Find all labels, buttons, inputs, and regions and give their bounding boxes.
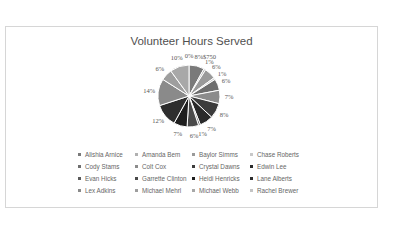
legend-item[interactable]: Colt Cox	[135, 163, 192, 170]
data-label: 14%	[143, 87, 156, 94]
legend-label: Michael Webb	[199, 187, 239, 194]
legend-label: Evan Hicks	[85, 175, 117, 182]
legend-swatch-icon	[192, 165, 195, 168]
legend-item[interactable]: Lex Adkins	[78, 187, 135, 194]
legend-item[interactable]: Amanda Bem	[135, 151, 192, 158]
data-label: 7%	[174, 130, 183, 137]
legend-swatch-icon	[78, 165, 81, 168]
legend-item[interactable]: Rachel Brewer	[250, 187, 308, 194]
legend-label: Baylor Simms	[199, 151, 238, 158]
data-label: 10%	[171, 54, 184, 61]
legend-item[interactable]: Garrette Clinton	[135, 175, 192, 182]
legend-label: Cody Stams	[85, 163, 119, 170]
legend-item[interactable]: Michael Webb	[192, 187, 250, 194]
data-label: 0%	[185, 52, 194, 59]
legend-swatch-icon	[135, 177, 138, 180]
data-label: 7%	[225, 93, 234, 100]
legend-label: Colt Cox	[142, 163, 166, 170]
legend-item[interactable]: Edwin Lee	[250, 163, 308, 170]
chart-frame[interactable]: Volunteer Hours Served 8%1%6%1%6%7%8%7%1…	[5, 26, 378, 208]
legend-label: Michael Mehrl	[142, 187, 181, 194]
legend-swatch-icon	[78, 177, 81, 180]
legend-swatch-icon	[192, 153, 195, 156]
data-label: 12%	[152, 117, 165, 124]
legend-swatch-icon	[135, 153, 138, 156]
legend-label: Garrette Clinton	[142, 175, 186, 182]
legend-label: Heidi Henricks	[199, 175, 240, 182]
data-label: 8%	[220, 111, 229, 118]
legend-swatch-icon	[250, 153, 253, 156]
legend-label: Lex Adkins	[85, 187, 115, 194]
legend-item[interactable]: Heidi Henricks	[192, 175, 250, 182]
legend-label: Alishia Arnice	[85, 151, 123, 158]
legend-item[interactable]: Chase Roberts	[250, 151, 308, 158]
legend-swatch-icon	[250, 177, 253, 180]
legend-item[interactable]: Baylor Simms	[192, 151, 250, 158]
legend-item[interactable]: Alishia Arnice	[78, 151, 135, 158]
legend-item[interactable]: Lane Alberts	[250, 175, 308, 182]
data-label: 7%	[207, 125, 216, 132]
legend-swatch-icon	[192, 177, 195, 180]
legend-swatch-icon	[250, 189, 253, 192]
legend-swatch-icon	[135, 165, 138, 168]
chart-legend: Alishia ArniceAmanda BemBaylor SimmsChas…	[78, 151, 308, 194]
data-label: 6%	[190, 132, 199, 139]
data-label: 1%	[218, 70, 227, 77]
legend-item[interactable]: Evan Hicks	[78, 175, 135, 182]
legend-item[interactable]: Cody Stams	[78, 163, 135, 170]
data-label: 6%	[156, 65, 165, 72]
legend-label: Chase Roberts	[257, 151, 299, 158]
legend-label: Lane Alberts	[257, 175, 292, 182]
legend-label: Edwin Lee	[257, 163, 286, 170]
legend-item[interactable]: Michael Mehrl	[135, 187, 192, 194]
legend-swatch-icon	[78, 153, 81, 156]
legend-swatch-icon	[135, 189, 138, 192]
extra-data-label: $750	[203, 53, 216, 60]
legend-label: Crystal Dawns	[199, 163, 240, 170]
data-label: 1%	[198, 130, 207, 137]
legend-label: Amanda Bem	[142, 151, 180, 158]
legend-swatch-icon	[192, 189, 195, 192]
legend-item[interactable]: Crystal Dawns	[192, 163, 250, 170]
data-label: 6%	[222, 77, 231, 84]
legend-swatch-icon	[78, 189, 81, 192]
legend-swatch-icon	[250, 165, 253, 168]
legend-label: Rachel Brewer	[257, 187, 298, 194]
